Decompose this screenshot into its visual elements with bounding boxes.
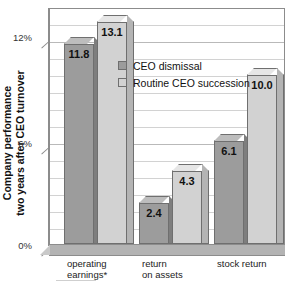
gridline-13 (50, 25, 284, 26)
bar-value-label: 6.1 (221, 145, 236, 157)
x-label-line1: stock return (217, 258, 267, 269)
bar-stock-return-routine[interactable]: 10.0 (247, 75, 277, 244)
x-label-line1: return (142, 258, 183, 269)
legend-label: CEO dismissal (133, 60, 202, 72)
bar-value-label: 4.3 (179, 175, 194, 187)
x-label-stock-return: stock return (217, 258, 267, 269)
x-axis-tick-labels: operating earnings* return on assets sto… (49, 258, 285, 282)
legend-swatch-icon (118, 61, 127, 70)
legend: CEO dismissal Routine CEO succession (118, 57, 250, 91)
x-label-line2: earnings* (67, 269, 107, 280)
y-axis-line (48, 8, 49, 246)
y-tick-12: 12% (2, 32, 32, 43)
x-label-line1: operating (67, 258, 107, 269)
bar-return-on-assets-dismissal[interactable]: 2.4 (139, 203, 169, 244)
bar-operating-earnings-dismissal[interactable]: 11.8 (64, 44, 94, 244)
bar-value-label: 2.4 (146, 207, 161, 219)
legend-item-routine-succession[interactable]: Routine CEO succession (118, 74, 250, 91)
bar-chart: Company performance two years after CEO … (0, 0, 294, 282)
bar-value-label: 13.1 (101, 26, 122, 38)
x-label-return-on-assets: return on assets (142, 258, 183, 280)
y-tick-0: 0% (2, 240, 32, 251)
x-label-operating-earnings: operating earnings* (67, 258, 107, 280)
legend-swatch-icon (118, 78, 127, 87)
y-axis-tick-labels: 12% 6% 0% (2, 0, 32, 282)
bar-operating-earnings-routine[interactable]: 13.1 (97, 22, 127, 244)
bar-stock-return-dismissal[interactable]: 6.1 (214, 141, 244, 244)
y-tick-6: 6% (2, 138, 32, 149)
bar-return-on-assets-routine[interactable]: 4.3 (172, 171, 202, 244)
footnote-rule (56, 280, 96, 281)
x-label-line2: on assets (142, 269, 183, 280)
plot-area: 11.8 13.1 2.4 4.3 6.1 10.0 (49, 8, 285, 245)
chart-floor-3d (49, 245, 285, 256)
bar-value-label: 11.8 (69, 48, 90, 60)
legend-item-ceo-dismissal[interactable]: CEO dismissal (118, 57, 250, 74)
bar-value-label: 10.0 (251, 79, 272, 91)
legend-label: Routine CEO succession (133, 77, 250, 89)
